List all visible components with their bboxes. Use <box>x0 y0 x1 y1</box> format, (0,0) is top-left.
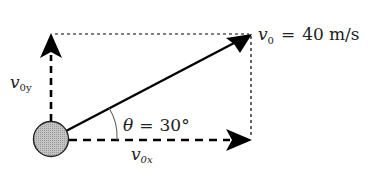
v0x-symbol: v <box>131 144 141 164</box>
v0y-subscript: 0y <box>20 82 32 93</box>
v0y-arrowhead-icon <box>40 33 62 58</box>
v0x-label: v0x <box>131 144 153 165</box>
v0-equals: = <box>281 24 295 44</box>
v0-label: v0=40m/s <box>258 24 359 46</box>
velocity-components-diagram: v0=40m/s v0y v0x θ=30° <box>0 0 371 176</box>
v0-symbol: v <box>258 24 268 44</box>
v0-subscript: 0 <box>268 35 274 46</box>
v0x-subscript: 0x <box>141 154 153 165</box>
theta-symbol: θ <box>123 115 133 135</box>
projectile-ball <box>34 122 69 157</box>
angle-value: 30° <box>160 115 190 135</box>
v0y-label: v0y <box>10 72 32 93</box>
v0-arrowhead-icon <box>226 34 252 53</box>
angle-equals: = <box>139 115 153 135</box>
v0-value: 40 <box>302 24 324 44</box>
v0-unit: m/s <box>329 24 360 44</box>
v0y-symbol: v <box>10 72 20 92</box>
angle-arc <box>109 108 117 140</box>
angle-label: θ=30° <box>123 115 190 135</box>
